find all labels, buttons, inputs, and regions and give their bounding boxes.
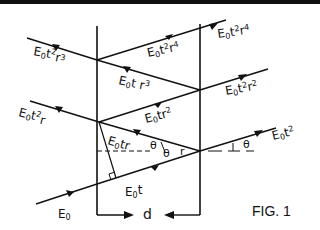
label-incident: E0 <box>58 207 71 222</box>
ray-incident <box>36 184 97 204</box>
label-inside-forward-2: E0tr2 <box>143 105 173 127</box>
angle-theta-outside: θ <box>243 138 250 151</box>
label-transmitted-3: E0t2r4 <box>216 23 250 42</box>
arrow-icon <box>254 130 263 137</box>
label-reflected-out-1: E0t2r <box>17 105 48 127</box>
ray-transmitted-2 <box>200 69 268 90</box>
arrow-right-icon <box>124 211 134 219</box>
label-transmitted-1: E0t2 <box>270 124 295 144</box>
label-reflected-out-2: E0t2r3 <box>32 44 67 65</box>
angle-r-label: r <box>180 145 185 158</box>
angle-theta-inside-1: θ <box>150 139 157 152</box>
label-inside-back-2: E0t r3 <box>117 73 151 94</box>
thickness-dimension: d <box>97 206 200 222</box>
figure-caption: FIG. 1 <box>252 203 291 219</box>
arrow-left-icon <box>164 211 174 219</box>
label-inside-forward-1: E0t <box>125 183 143 200</box>
thickness-label: d <box>143 206 152 222</box>
ray-transmitted-1 <box>200 128 276 151</box>
multiple-reflection-diagram: d θ θ r θ E0 E0t E0tr E0t2 E0t2r E0tr2 <box>0 0 320 230</box>
